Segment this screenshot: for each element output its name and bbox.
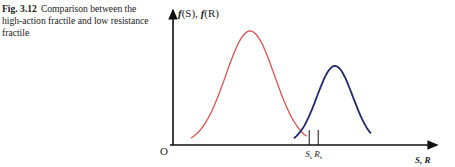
x-axis-label: S, R xyxy=(415,155,431,165)
origin-label: O xyxy=(160,145,168,157)
load-curve xyxy=(191,31,307,138)
resistance-curve xyxy=(294,66,371,138)
y-axis-label: f(S), f(R) xyxy=(178,7,219,20)
distribution-chart: f(S), f(R) O S, R Sk Rk xyxy=(0,0,455,167)
marker-rk-label: Rk xyxy=(313,149,323,160)
marker-sk-label: Sk xyxy=(305,149,313,160)
